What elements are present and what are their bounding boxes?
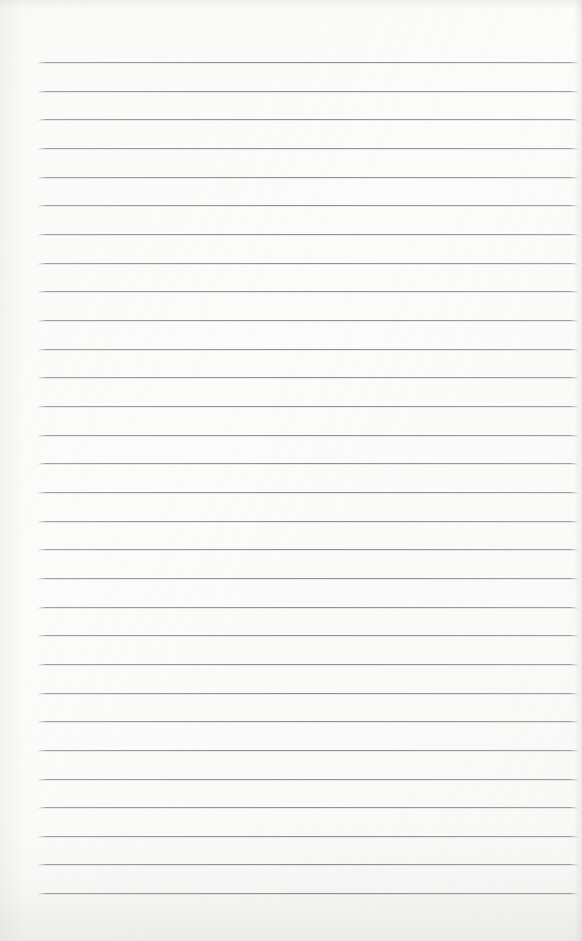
ruled-line (38, 205, 578, 206)
ruled-line (38, 463, 578, 464)
ruled-line (38, 864, 578, 865)
ruled-line (38, 750, 578, 751)
ruled-lines-container (0, 0, 582, 941)
ruled-line (38, 635, 578, 636)
ruled-line (38, 779, 578, 780)
notebook-page (0, 0, 582, 941)
ruled-line (38, 263, 578, 264)
ruled-line (38, 836, 578, 837)
ruled-line (38, 492, 578, 493)
ruled-line (38, 349, 578, 350)
ruled-line (38, 91, 578, 92)
ruled-line (38, 148, 578, 149)
ruled-line (38, 119, 578, 120)
ruled-line (38, 62, 578, 63)
ruled-line (38, 549, 578, 550)
ruled-line (38, 406, 578, 407)
ruled-line (38, 521, 578, 522)
ruled-line (38, 578, 578, 579)
ruled-line (38, 721, 578, 722)
ruled-line (38, 607, 578, 608)
ruled-line (38, 234, 578, 235)
ruled-line (38, 320, 578, 321)
ruled-line (38, 291, 578, 292)
ruled-line (38, 693, 578, 694)
ruled-line (38, 807, 578, 808)
ruled-line (38, 893, 578, 894)
ruled-line (38, 177, 578, 178)
ruled-line (38, 377, 578, 378)
ruled-line (38, 435, 578, 436)
ruled-line (38, 664, 578, 665)
